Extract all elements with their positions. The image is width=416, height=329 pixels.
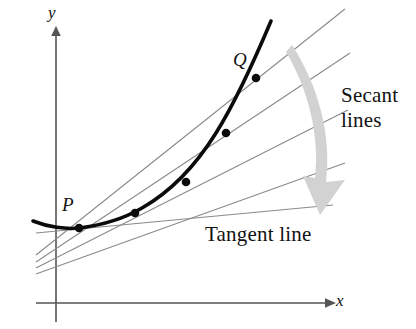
curve-point-S2 bbox=[182, 178, 191, 187]
curve-points-group bbox=[75, 74, 261, 233]
curved-gray-arrow bbox=[286, 45, 345, 215]
figure-svg bbox=[0, 0, 416, 329]
curve-point-S3 bbox=[222, 129, 231, 138]
secant-lines-label-line2: lines bbox=[341, 110, 382, 131]
y-axis-arrowhead bbox=[51, 26, 61, 36]
curve-point-Q bbox=[252, 74, 261, 83]
x-axis-arrowhead bbox=[325, 298, 336, 308]
curved-gray-arrow-body bbox=[286, 45, 345, 215]
point-label-P: P bbox=[62, 195, 74, 214]
point-label-Q: Q bbox=[233, 50, 247, 69]
curve-point-P bbox=[75, 224, 84, 233]
tangent-line-label: Tangent line bbox=[205, 224, 311, 245]
figure-canvas: y x P Q Secant lines Tangent line bbox=[0, 0, 416, 329]
y-axis-label: y bbox=[48, 4, 56, 21]
secant-lines-label-line1: Secant bbox=[341, 85, 398, 106]
curve-point-S1 bbox=[131, 209, 140, 218]
x-axis-label: x bbox=[336, 292, 344, 309]
